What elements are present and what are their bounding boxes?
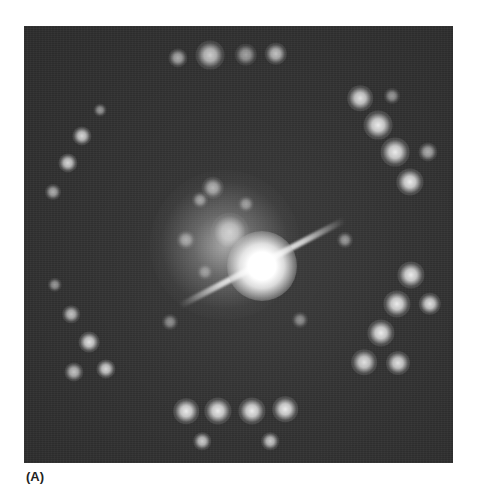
diffraction-spot (192, 192, 208, 208)
diffraction-spot (351, 349, 377, 375)
diffraction-spot (238, 196, 254, 212)
diffraction-spot (272, 396, 298, 422)
diffraction-spot (173, 398, 199, 424)
diffraction-spot (193, 432, 211, 450)
panel-label: (A) (26, 469, 44, 484)
diffraction-spot (292, 312, 308, 328)
diffraction-spot (381, 138, 410, 167)
diffraction-spot (196, 41, 225, 70)
diffraction-spot (364, 111, 393, 140)
diffraction-spot (197, 264, 213, 280)
diffraction-spot (347, 85, 373, 111)
diffraction-spot (261, 432, 279, 450)
diffraction-spot (62, 305, 80, 323)
diffraction-spot (79, 332, 100, 353)
diffraction-spot (162, 314, 178, 330)
diffraction-spot (45, 184, 61, 200)
diffraction-spot (384, 88, 400, 104)
diffraction-spot (337, 232, 353, 248)
central-beam-spot (227, 231, 297, 301)
diffraction-spot (386, 351, 410, 375)
diffraction-spot (94, 104, 107, 117)
diffraction-pattern-image (24, 26, 453, 463)
